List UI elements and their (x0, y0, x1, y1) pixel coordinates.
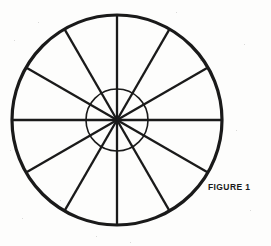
figure-page: FIGURE 1 (0, 0, 271, 246)
spoke-line (117, 68, 208, 121)
spoke-line (26, 68, 117, 121)
spoke-line (117, 120, 170, 211)
figure-caption: FIGURE 1 (208, 182, 250, 192)
spoke-line (117, 29, 170, 120)
spoke-line (65, 29, 118, 120)
spoked-wheel-diagram (0, 0, 271, 246)
spoke-line (117, 120, 208, 173)
spoke-line (26, 120, 117, 173)
spoke-line (65, 120, 118, 211)
